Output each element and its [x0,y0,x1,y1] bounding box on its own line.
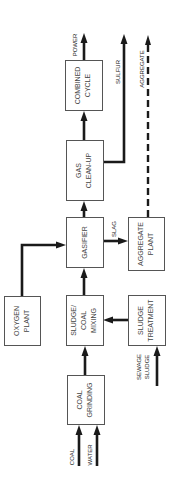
arrowhead-icon [121,34,128,44]
label-sludge: SLUDGE [144,355,150,380]
box-label: SLUDGE [137,306,144,335]
process-flow-diagram: COMBINED CYCLE GAS CLEAN-UP GASIFIER AGG… [0,0,177,481]
box-label: COAL [76,390,83,409]
arrowhead-icon [103,317,113,324]
box-combined-cycle: COMBINED CYCLE [66,61,103,111]
box-oxygen-plant: OXYGEN PLANT [5,297,41,346]
box-label: GAS [75,163,82,178]
box-label: COMBINED [74,67,81,105]
arrowhead-icon [145,35,151,45]
arrowhead-icon [118,238,128,245]
label-aggregate: AGGREGATE [139,50,145,88]
label-slag: SLAG [111,221,117,237]
box-label: OXYGEN [13,306,20,336]
label-water: WATER [87,444,93,466]
label-coal: COAL [69,448,75,465]
box-sludge-coal-mixing: SLUDGE/ COAL MIXING [67,296,104,346]
label-sulfur: SULFUR [115,59,121,84]
arrowhead-icon [94,425,101,435]
label-sewage: SEWAGE [136,354,142,380]
box-aggregate-plant: AGGREGATE PLANT [129,218,165,271]
box-label: CYCLE [84,73,91,97]
box-label: PLANT [23,309,30,332]
oxygen-flow-line [22,245,57,296]
box-gasifier: GASIFIER [67,218,104,268]
box-sludge-treatment: SLUDGE TREATMENT [129,296,166,346]
box-label: SLUDGE/ [70,305,77,336]
box-label: CLEAN-UP [85,152,92,188]
box-label: GASIFIER [81,226,88,259]
arrowhead-icon [81,201,88,211]
arrowhead-icon [81,268,88,278]
box-gas-cleanup: GAS CLEAN-UP [67,141,104,201]
arrowhead-icon [81,111,88,121]
arrowhead-icon [82,346,89,356]
arrowhead-icon [56,242,66,249]
label-power: POWER [72,33,78,56]
box-label: TREATMENT [147,299,154,342]
box-coal-grinding: COAL GRINDING [68,376,105,425]
box-label: COAL [80,311,87,330]
box-label: PLANT [147,232,154,255]
arrowhead-icon [81,33,88,43]
arrowhead-icon [154,346,161,356]
box-label: MIXING [90,308,97,333]
box-label: AGGREGATE [137,222,144,266]
arrowhead-icon [76,425,83,435]
box-label: GRINDING [86,383,93,418]
